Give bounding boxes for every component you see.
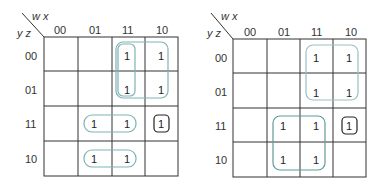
- col-header: 00: [244, 26, 256, 38]
- kmap-right: w x y z 00 01 11 10 00 01 11 10 1 1 1 1 …: [191, 0, 382, 188]
- cell-value: 1: [154, 118, 168, 130]
- cell-value: 1: [120, 84, 134, 96]
- row-header: 01: [25, 84, 37, 96]
- cell-value: 1: [154, 50, 168, 62]
- col-header: 11: [311, 26, 322, 38]
- col-header: 11: [122, 24, 133, 36]
- cell-value: 1: [309, 154, 323, 166]
- row-header: 01: [215, 86, 227, 98]
- cell-value: 1: [87, 118, 101, 130]
- cell-value: 1: [342, 120, 356, 132]
- row-header: 10: [215, 154, 227, 166]
- cell-value: 1: [154, 84, 168, 96]
- col-header: 00: [54, 24, 66, 36]
- cell-value: 1: [120, 153, 134, 165]
- cell-value: 1: [309, 52, 323, 64]
- col-header: 10: [156, 24, 168, 36]
- cell-value: 1: [342, 52, 356, 64]
- cell-value: 1: [309, 120, 323, 132]
- cell-value: 1: [87, 153, 101, 165]
- col-header: 01: [278, 26, 290, 38]
- col-header: 10: [345, 26, 357, 38]
- cell-value: 1: [120, 50, 134, 62]
- col-var-label: w x: [221, 10, 238, 22]
- row-var-label: y z: [207, 27, 221, 39]
- row-header: 10: [25, 153, 37, 165]
- row-header: 00: [215, 52, 227, 64]
- cell-value: 1: [276, 154, 290, 166]
- cell-value: 1: [276, 120, 290, 132]
- row-header: 00: [25, 50, 37, 62]
- row-var-label: y z: [17, 27, 31, 39]
- col-header: 01: [89, 24, 101, 36]
- kmap-left: w x y z 00 01 11 10 00 01 11 10 1 1 1 1 …: [0, 0, 191, 188]
- row-header: 11: [215, 120, 226, 132]
- cell-value: 1: [309, 87, 323, 99]
- row-header: 11: [25, 118, 36, 130]
- cell-value: 1: [342, 87, 356, 99]
- cell-value: 1: [120, 118, 134, 130]
- col-var-label: w x: [32, 10, 49, 22]
